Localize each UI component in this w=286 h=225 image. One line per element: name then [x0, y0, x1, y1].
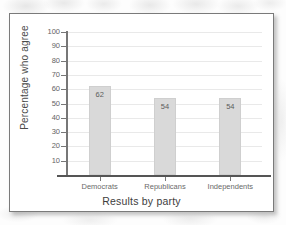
plot-area: Percentage who agree 1009080706050403020…: [10, 14, 273, 211]
x-axis-line: [57, 175, 271, 177]
bar-value-label: 54: [150, 102, 180, 111]
x-axis-tick: [230, 177, 231, 181]
bar-value-label: 54: [215, 102, 245, 111]
y-axis-title: Percentage who agree: [19, 18, 30, 138]
gridline: [66, 61, 262, 62]
gridline: [66, 32, 262, 33]
y-axis-tick-label: 40: [34, 114, 60, 121]
y-axis-tick: [61, 132, 66, 133]
x-axis-tick: [100, 177, 101, 181]
y-axis-tick: [61, 46, 66, 47]
y-axis-tick: [61, 75, 66, 76]
y-axis-tick-label: 80: [34, 57, 60, 64]
y-axis-tick-label: 30: [34, 128, 60, 135]
y-axis-tick-label: 100: [34, 28, 60, 35]
x-axis-category-label: Independents: [195, 182, 265, 191]
y-axis-tick-label: 60: [34, 85, 60, 92]
x-axis-category-label: Republicans: [130, 182, 200, 191]
y-axis-tick-label: 90: [34, 42, 60, 49]
y-axis-tick: [61, 104, 66, 105]
y-axis-tick: [61, 89, 66, 90]
y-axis-tick-label: 10: [34, 157, 60, 164]
chart-card: Percentage who agree 1009080706050403020…: [9, 13, 274, 212]
gridline: [66, 75, 262, 76]
y-axis-line: [66, 31, 68, 177]
x-axis-category-label: Democrats: [65, 182, 135, 191]
y-axis-tick-label: 50: [34, 100, 60, 107]
y-axis-tick-label: 20: [34, 142, 60, 149]
bar: [89, 86, 111, 175]
x-axis-title: Results by party: [10, 195, 273, 207]
x-axis-tick: [165, 177, 166, 181]
y-axis-tick-label: 70: [34, 71, 60, 78]
y-axis-tick: [61, 32, 66, 33]
bar-value-label: 62: [85, 90, 115, 99]
y-axis-tick: [61, 61, 66, 62]
y-axis-tick: [61, 161, 66, 162]
gridline: [66, 46, 262, 47]
y-axis-tick: [61, 146, 66, 147]
y-axis-tick: [61, 118, 66, 119]
